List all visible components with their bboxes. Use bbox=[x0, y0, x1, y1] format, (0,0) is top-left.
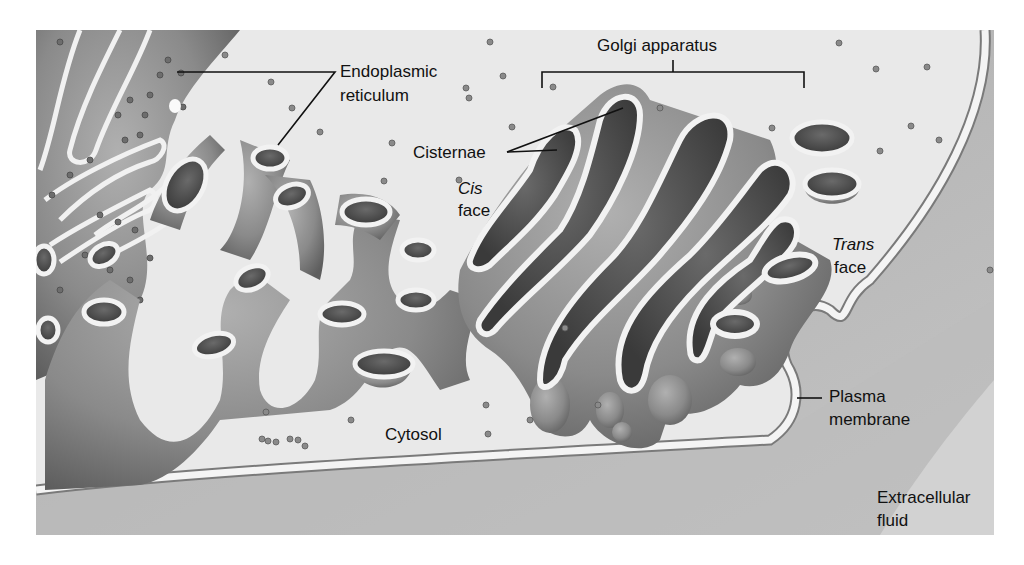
label-cytosol: Cytosol bbox=[385, 425, 442, 444]
label-membrane: membrane bbox=[829, 410, 910, 429]
label-trans-face: face bbox=[834, 258, 866, 277]
label-cisternae: Cisternae bbox=[413, 143, 486, 162]
label-trans: Trans bbox=[832, 235, 875, 254]
label-cis: Cis bbox=[458, 179, 483, 198]
label-endoplasmic: Endoplasmic bbox=[340, 62, 438, 81]
label-fluid: fluid bbox=[877, 511, 908, 530]
label-plasma: Plasma bbox=[829, 387, 886, 406]
label-extracellular: Extracellular bbox=[877, 488, 971, 507]
label-cis-face: face bbox=[458, 201, 490, 220]
golgi-diagram: Golgi apparatus Endoplasmic reticulum Ci… bbox=[0, 0, 1024, 565]
label-golgi-apparatus: Golgi apparatus bbox=[597, 36, 717, 55]
label-reticulum: reticulum bbox=[340, 86, 409, 105]
